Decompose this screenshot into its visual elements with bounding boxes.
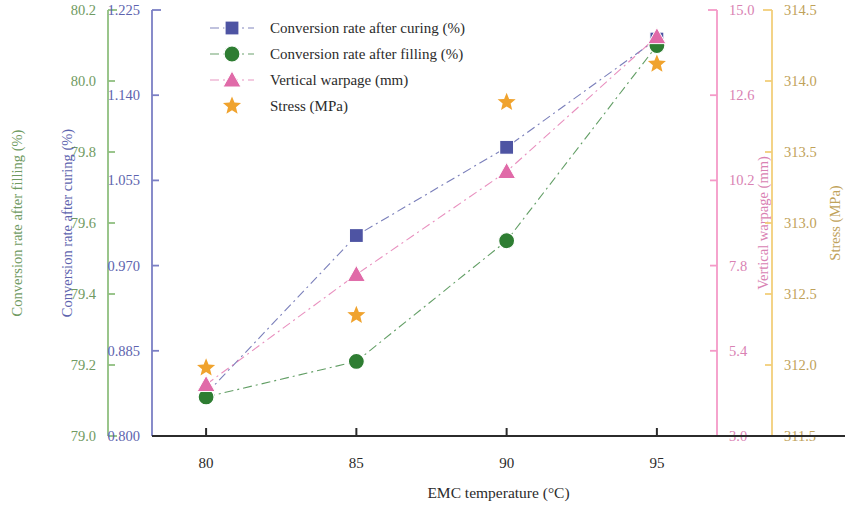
series-markers-0 [199, 32, 664, 401]
legend-marker-star-icon [223, 97, 241, 114]
axis-tick-label: 314.0 [784, 73, 817, 89]
series-line [206, 39, 657, 394]
data-point [499, 233, 515, 249]
axis-tick-label: 80.2 [71, 2, 96, 18]
axis-y-right-outer: 314.5314.0313.5313.0312.5312.0311.5Stres… [763, 2, 844, 444]
x-axis-title: EMC temperature (°C) [427, 484, 569, 502]
legend-label: Conversion rate after filling (%) [270, 46, 463, 63]
data-point [347, 265, 365, 281]
legend-marker-square-icon [225, 21, 239, 35]
series-markers-2 [197, 28, 666, 392]
series-0 [206, 39, 657, 394]
axis-tick-label: 312.0 [784, 357, 817, 373]
legend-label: Vertical warpage (mm) [270, 72, 408, 89]
axis-tick-label: 12.6 [729, 87, 754, 103]
axis-tick-label: 0.885 [107, 343, 140, 359]
axis-tick-label: 10.2 [729, 172, 754, 188]
axis-tick-label: 314.5 [784, 2, 817, 18]
axis-tick-label: 5.4 [729, 343, 748, 359]
axis-tick-label: 79.2 [71, 357, 96, 373]
axis-tick-label: 0.970 [107, 258, 140, 274]
axis-y-right-inner: 15.012.610.27.85.43.0Vertical warpage (m… [708, 2, 772, 444]
legend-item-0[interactable]: Conversion rate after curing (%) [210, 20, 465, 37]
x-axis-tick-label: 85 [349, 455, 364, 471]
data-point [498, 93, 516, 110]
axis-tick-label: 1.225 [107, 2, 140, 18]
legend-label: Conversion rate after curing (%) [270, 20, 465, 37]
data-point [648, 54, 666, 71]
chart-legend: Conversion rate after curing (%)Conversi… [210, 20, 465, 115]
axis-tick-label: 79.0 [71, 428, 96, 444]
series-markers-3 [197, 54, 666, 375]
legend-item-2[interactable]: Vertical warpage (mm) [210, 71, 408, 89]
axis-tick-label: 1.140 [107, 87, 140, 103]
legend-item-3[interactable]: Stress (MPa) [223, 97, 348, 116]
legend-marker-triangle-icon [223, 71, 241, 87]
data-point [348, 353, 364, 369]
axis-tick-label: 80.0 [71, 73, 96, 89]
axis-tick-label: 312.5 [784, 286, 817, 302]
series-markers-1 [198, 38, 665, 405]
series-2 [206, 37, 657, 385]
data-point [498, 163, 516, 179]
x-axis-tick-label: 80 [199, 455, 214, 471]
axis-title-y-left-outer: Conversion rate after filling (%) [9, 129, 26, 316]
legend-item-1[interactable]: Conversion rate after filling (%) [210, 46, 463, 63]
data-point [197, 376, 215, 392]
multi-axis-line-chart: 80.280.079.879.679.479.279.0Conversion r… [0, 0, 856, 511]
axis-tick-label: 0.800 [107, 428, 140, 444]
data-point [197, 358, 215, 375]
axis-title-y-left-inner: Conversion rate after curing (%) [59, 129, 76, 318]
x-axis-tick-label: 90 [499, 455, 514, 471]
series-line [206, 37, 657, 385]
axis-tick-label: 1.055 [107, 172, 140, 188]
chart-figure: 80.280.079.879.679.479.279.0Conversion r… [0, 0, 856, 511]
axis-title-y-right-outer: Stress (MPa) [827, 185, 844, 260]
axis-tick-label: 7.8 [729, 258, 747, 274]
data-point [347, 306, 365, 323]
axis-tick-label: 15.0 [729, 2, 754, 18]
legend-label: Stress (MPa) [270, 98, 348, 115]
data-point [500, 140, 514, 154]
legend-marker-circle-icon [224, 46, 240, 62]
axis-tick-label: 313.0 [784, 215, 817, 231]
x-axis-tick-label: 95 [649, 455, 664, 471]
axis-tick-label: 313.5 [784, 144, 817, 160]
data-point [349, 229, 363, 243]
